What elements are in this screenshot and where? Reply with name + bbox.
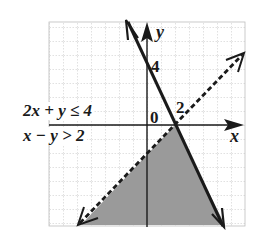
y-tick-4: 4	[151, 57, 160, 77]
annotation-2: 2	[176, 98, 185, 118]
y-axis-label: y	[156, 22, 164, 43]
inequality-1: 2x + y ≤ 4	[21, 102, 94, 120]
inequality-2: x − y > 2	[21, 127, 87, 145]
x-axis-label: x	[230, 126, 239, 147]
origin-label: 0	[150, 108, 159, 128]
